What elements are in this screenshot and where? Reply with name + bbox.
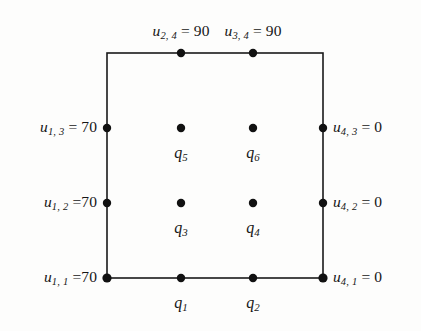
label-u-4-1-eq: = [357, 268, 374, 285]
label-u-3-4-sub: 3, 4 [232, 30, 249, 41]
node-q3 [177, 199, 185, 207]
label-q4-sub: 4 [254, 226, 259, 238]
label-u-4-3-value: 0 [374, 118, 382, 135]
label-u-1-3: u1, 3 = 70 [40, 119, 97, 138]
label-q5-sub: 5 [182, 151, 187, 163]
label-q3: q3 [174, 220, 187, 238]
label-q6-var: q [246, 144, 254, 161]
label-q1: q1 [174, 295, 187, 313]
label-u-1-1-value: 70 [81, 268, 97, 285]
label-u-4-2: u4, 2 = 0 [333, 194, 382, 213]
node-u-4-3 [319, 124, 327, 132]
label-u-3-4-var: u [225, 22, 233, 39]
label-q5: q5 [174, 145, 187, 163]
label-q2: q2 [246, 295, 259, 313]
label-u-1-2-eq: = [68, 193, 81, 210]
label-u-3-4-value: 90 [266, 22, 282, 39]
node-u-2-4 [177, 49, 185, 57]
node-u-3-4 [249, 49, 257, 57]
label-u-4-2-eq: = [357, 193, 374, 210]
label-u-1-1-var: u [44, 268, 52, 285]
node-q5 [177, 124, 185, 132]
label-u-2-4-var: u [153, 22, 161, 39]
label-u-2-4-value: 90 [194, 22, 210, 39]
node-u-4-1 [318, 273, 327, 282]
label-u-1-3-var: u [40, 118, 48, 135]
label-u-4-2-value: 0 [374, 193, 382, 210]
label-u-1-2-sub: 1, 2 [52, 201, 69, 212]
label-u-1-1: u1, 1 =70 [44, 269, 97, 288]
label-u-1-2-var: u [44, 193, 52, 210]
label-q2-var: q [246, 294, 254, 311]
label-q6: q6 [246, 145, 259, 163]
label-u-4-3-var: u [333, 118, 341, 135]
node-q4 [249, 199, 257, 207]
label-q6-sub: 6 [254, 151, 259, 163]
label-q4: q4 [246, 220, 259, 238]
label-u-3-4: u3, 4 = 90 [225, 23, 282, 42]
label-u-1-3-eq: = [65, 118, 82, 135]
label-q4-var: q [246, 219, 254, 236]
label-u-4-3-eq: = [357, 118, 374, 135]
label-q5-var: q [174, 144, 182, 161]
label-u-1-3-sub: 1, 3 [48, 126, 65, 137]
label-u-4-1-sub: 4, 1 [341, 276, 358, 287]
label-u-1-1-eq: = [68, 268, 81, 285]
label-q1-var: q [174, 294, 182, 311]
label-u-4-1: u4, 1 = 0 [333, 269, 382, 288]
label-u-4-3: u4, 3 = 0 [333, 119, 382, 138]
node-u-1-1 [102, 273, 111, 282]
label-q2-sub: 2 [254, 301, 259, 313]
label-q1-sub: 1 [182, 301, 187, 313]
node-u-1-3 [103, 124, 111, 132]
label-u-1-1-sub: 1, 1 [52, 276, 69, 287]
label-u-1-2-value: 70 [81, 193, 97, 210]
label-u-1-2: u1, 2 =70 [44, 194, 97, 213]
label-u-4-3-sub: 4, 3 [341, 126, 358, 137]
node-u-1-2 [103, 199, 111, 207]
label-u-4-1-value: 0 [374, 268, 382, 285]
label-u-4-1-var: u [333, 268, 341, 285]
label-u-2-4-sub: 2, 4 [160, 30, 177, 41]
label-u-2-4: u2, 4 = 90 [153, 23, 210, 42]
node-q1 [177, 274, 185, 282]
label-u-2-4-eq: = [177, 22, 194, 39]
node-q6 [249, 124, 257, 132]
domain-square-outline [107, 53, 323, 278]
label-q3-var: q [174, 219, 182, 236]
finite-difference-grid-figure: u2, 4 = 90 u3, 4 = 90 u1, 3 = 70 u1, 2 =… [0, 0, 421, 331]
label-u-3-4-eq: = [249, 22, 266, 39]
label-u-1-3-value: 70 [81, 118, 97, 135]
node-u-4-2 [319, 199, 327, 207]
label-q3-sub: 3 [182, 226, 187, 238]
node-q2 [249, 274, 257, 282]
label-u-4-2-var: u [333, 193, 341, 210]
label-u-4-2-sub: 4, 2 [341, 201, 358, 212]
